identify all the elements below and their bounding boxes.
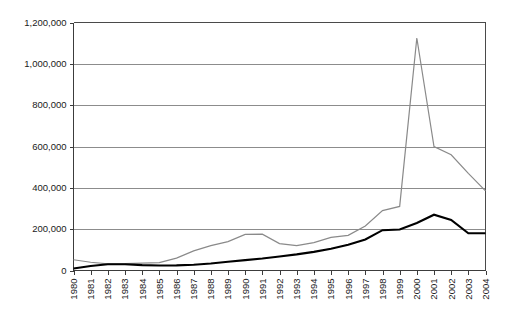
x-tick-label: 2003	[463, 279, 474, 300]
x-tick-label: 1991	[257, 279, 268, 300]
x-tick-label: 1980	[68, 279, 79, 300]
x-tick-label: 1988	[205, 279, 216, 300]
x-tick-label: 1993	[291, 279, 302, 300]
x-tick-label: 1994	[308, 279, 319, 300]
x-tick-label: 1982	[102, 279, 113, 300]
y-tick-label: 1,000,000	[24, 58, 66, 69]
x-tick-label: 1989	[222, 279, 233, 300]
line-chart: 1,200,0001,000,000800,000600,000400,0002…	[0, 0, 506, 325]
x-tick-label: 1992	[274, 279, 285, 300]
x-tick-label: 1985	[154, 279, 165, 300]
y-tick-label: 800,000	[32, 99, 66, 110]
y-tick-label: 400,000	[32, 182, 66, 193]
x-tick-label: 1981	[85, 279, 96, 300]
x-tick-label: 2000	[411, 279, 422, 300]
chart-background	[0, 0, 506, 325]
x-tick-label: 1984	[137, 279, 148, 300]
x-tick-label: 1998	[377, 279, 388, 300]
x-tick-label: 1987	[188, 279, 199, 300]
x-tick-label: 1996	[343, 279, 354, 300]
y-tick-label: 1,200,000	[24, 17, 66, 28]
x-tick-label: 2004	[480, 279, 491, 300]
x-tick-label: 2002	[446, 279, 457, 300]
x-tick-label: 1983	[119, 279, 130, 300]
x-tick-label: 1997	[360, 279, 371, 300]
x-tick-label: 1986	[171, 279, 182, 300]
y-tick-label: 200,000	[32, 223, 66, 234]
x-tick-label: 1990	[240, 279, 251, 300]
x-tick-label: 1999	[394, 279, 405, 300]
chart-container: 1,200,0001,000,000800,000600,000400,0002…	[0, 0, 506, 325]
y-tick-label: 600,000	[32, 141, 66, 152]
x-tick-label: 2001	[428, 279, 439, 300]
x-tick-label: 1995	[325, 279, 336, 300]
y-tick-label: 0	[61, 265, 66, 276]
